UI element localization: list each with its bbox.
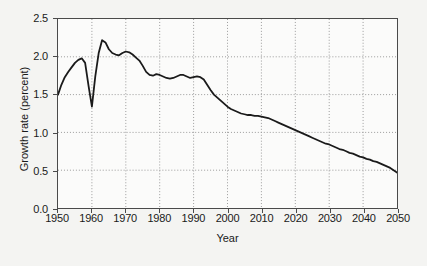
x-tick-mark (193, 209, 194, 213)
y-tick-label: 2.0 (0, 50, 48, 62)
x-tick-mark (57, 209, 58, 213)
y-tick-label: 2.5 (0, 12, 48, 24)
growth-rate-line-chart: Growth rate (percent) 0.00.51.01.52.02.5… (0, 0, 427, 266)
x-tick-mark (159, 209, 160, 213)
x-axis-title: Year (57, 232, 398, 244)
data-series-line (58, 19, 397, 208)
x-tick-mark (125, 209, 126, 213)
x-tick-mark (330, 209, 331, 213)
x-tick-mark (296, 209, 297, 213)
x-tick-mark (364, 209, 365, 213)
x-tick-mark (228, 209, 229, 213)
plot-area (57, 18, 398, 209)
x-tick-mark (91, 209, 92, 213)
y-tick-label: 1.5 (0, 88, 48, 100)
x-tick-mark (262, 209, 263, 213)
y-tick-label: 0.5 (0, 165, 48, 177)
y-tick-label: 1.0 (0, 127, 48, 139)
x-tick-mark (398, 209, 399, 213)
x-tick-label: 2050 (375, 212, 421, 224)
